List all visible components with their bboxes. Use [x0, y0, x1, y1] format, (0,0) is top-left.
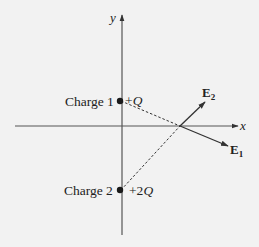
y-axis-label: y — [108, 10, 116, 25]
charge-1-label: Charge 1 — [65, 94, 114, 109]
field-label-e2: E2 — [202, 85, 216, 102]
charge-2-dot — [117, 187, 123, 193]
field-vector-e1 — [180, 126, 228, 146]
charge-2-value: +2Q — [129, 183, 153, 198]
field-label-e1: E1 — [230, 142, 244, 159]
x-axis-label: x — [239, 118, 246, 133]
field-vector-e2 — [180, 102, 205, 126]
charge-2-dashed-line — [121, 126, 180, 190]
electric-field-diagram: y x Charge 1 +Q Charge 2 +2Q E2 E1 — [0, 0, 259, 247]
charge-1-value: +Q — [125, 93, 143, 108]
charge-1-dot — [117, 98, 123, 104]
charge-2-label: Charge 2 — [64, 183, 113, 198]
